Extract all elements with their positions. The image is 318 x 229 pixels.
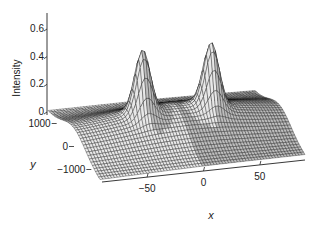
surface-mesh [48, 43, 305, 180]
z-tick-label: 0.2 [30, 78, 44, 89]
x-tick-label: 0 [201, 177, 207, 188]
z-tick-label: 0 [38, 106, 44, 117]
x-tick-label: −50 [139, 183, 156, 194]
x-tick-label: 50 [254, 171, 266, 182]
surface-plot: 00.20.40.610000−1000−50050 Intensity y x [0, 0, 318, 229]
y-tick-label: 0 [62, 141, 68, 152]
z-tick-label: 0.6 [30, 23, 44, 34]
x-tick-mark [147, 173, 148, 177]
z-axis-label: Intensity [11, 59, 22, 96]
x-tick-mark [260, 161, 261, 165]
x-axis-label: x [207, 209, 214, 221]
y-axis-label: y [29, 158, 37, 170]
y-tick-label: 1000 [28, 118, 51, 129]
x-tick-mark [204, 167, 205, 171]
z-tick-label: 0.4 [30, 51, 44, 62]
y-tick-label: −1000 [57, 164, 86, 175]
